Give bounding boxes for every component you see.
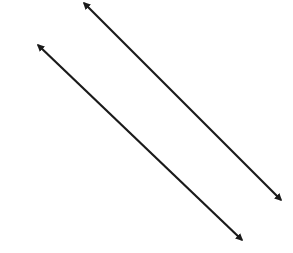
double-arrow-line-upper [84,3,281,200]
parallel-lines-diagram [0,0,293,253]
double-arrow-line-lower [38,45,242,240]
